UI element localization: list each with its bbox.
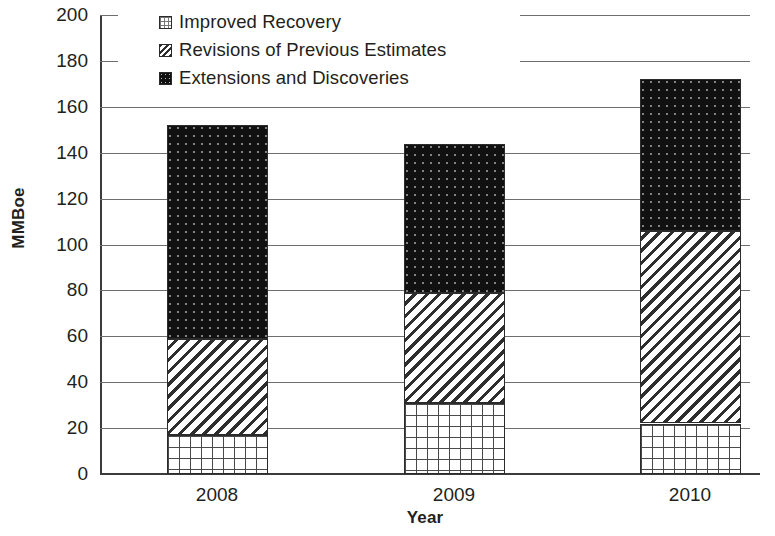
- legend-item-label: Extensions and Discoveries: [179, 67, 409, 89]
- grid-swatch-icon: [159, 16, 172, 29]
- legend-item-label: Revisions of Previous Estimates: [179, 39, 446, 61]
- bar-segment[interactable]: [167, 339, 268, 435]
- y-tick-label: 120: [0, 188, 88, 210]
- y-tick-label: 20: [0, 417, 88, 439]
- bar-segment[interactable]: [640, 231, 741, 424]
- legend-item[interactable]: Improved Recovery: [159, 8, 446, 36]
- x-tick-label: 2009: [374, 484, 534, 506]
- legend-item-label: Improved Recovery: [179, 11, 341, 33]
- y-tick-label: 200: [0, 4, 88, 26]
- y-tick-label: 160: [0, 96, 88, 118]
- x-tick-label: 2010: [610, 484, 770, 506]
- chart-legend: Improved Recovery Revisions of Previous …: [157, 6, 452, 94]
- y-tick-label: 180: [0, 50, 88, 72]
- y-tick-label: 100: [0, 234, 88, 256]
- stacked-bar-chart: MMBoe Year 020406080100120140160180200 2…: [0, 0, 775, 536]
- bar-segment[interactable]: [640, 424, 741, 474]
- bar-segment[interactable]: [167, 125, 268, 338]
- bar-segment[interactable]: [167, 435, 268, 474]
- y-tick-label: 140: [0, 142, 88, 164]
- dotted-black-swatch-icon: [159, 72, 172, 85]
- y-tick-label: 40: [0, 371, 88, 393]
- bar-segment[interactable]: [640, 79, 741, 230]
- gridline: [100, 15, 118, 16]
- y-tick-label: 80: [0, 279, 88, 301]
- gridline: [100, 61, 118, 62]
- legend-item[interactable]: Extensions and Discoveries: [159, 64, 446, 92]
- y-tick-label: 0: [0, 463, 88, 485]
- x-axis-title: Year: [100, 508, 750, 528]
- bar-segment[interactable]: [404, 403, 505, 474]
- legend-item[interactable]: Revisions of Previous Estimates: [159, 36, 446, 64]
- x-tick-label: 2008: [137, 484, 297, 506]
- y-tick-label: 60: [0, 325, 88, 347]
- bar-stack: [640, 15, 741, 474]
- diagonal-hatch-swatch-icon: [159, 44, 172, 57]
- bar-segment[interactable]: [404, 293, 505, 403]
- bar-segment[interactable]: [404, 144, 505, 293]
- y-axis-title: MMBoe: [9, 163, 29, 273]
